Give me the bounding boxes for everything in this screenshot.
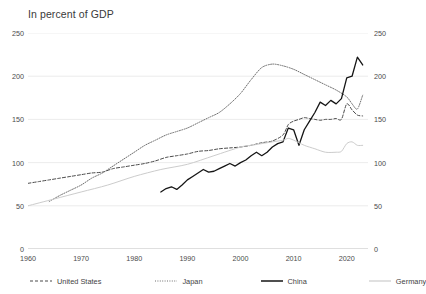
gridlines-group bbox=[28, 33, 368, 249]
legend-item-us[interactable]: United States bbox=[30, 277, 101, 286]
legend-swatch-cn-icon bbox=[261, 277, 283, 285]
x-tick-label: 2020 bbox=[332, 254, 362, 263]
legend-label: Japan bbox=[182, 277, 202, 286]
y-tick-label-right: 250 bbox=[374, 29, 398, 38]
series-line-china bbox=[161, 57, 363, 192]
legend-swatch-jp-icon bbox=[155, 277, 177, 285]
x-tick-label: 1990 bbox=[172, 254, 202, 263]
legend-label: China bbox=[288, 277, 307, 286]
legend-item-de[interactable]: Germany bbox=[369, 277, 426, 286]
y-tick-label-right: 200 bbox=[374, 72, 398, 81]
legend-swatch-de-icon bbox=[369, 277, 391, 285]
legend-swatch-us-icon bbox=[30, 277, 52, 285]
y-tick-label-right: 100 bbox=[374, 159, 398, 168]
x-tick-label: 2000 bbox=[226, 254, 256, 263]
x-tick-label: 1960 bbox=[13, 254, 43, 263]
y-tick-label-left: 200 bbox=[0, 72, 24, 81]
x-tick-label: 2010 bbox=[279, 254, 309, 263]
chart-canvas bbox=[28, 33, 368, 249]
y-tick-label-left: 0 bbox=[0, 245, 24, 254]
series-group bbox=[28, 57, 363, 206]
legend-label: Germany bbox=[396, 277, 426, 286]
y-tick-label-right: 0 bbox=[374, 245, 398, 254]
y-tick-label-left: 100 bbox=[0, 159, 24, 168]
legend-item-cn[interactable]: China bbox=[261, 277, 307, 286]
chart-legend: United StatesJapanChinaGermany bbox=[0, 272, 396, 290]
series-line-japan bbox=[49, 64, 362, 201]
y-tick-label-left: 250 bbox=[0, 29, 24, 38]
y-tick-label-right: 50 bbox=[374, 202, 398, 211]
series-line-germany bbox=[28, 138, 363, 205]
chart-title: In percent of GDP bbox=[28, 8, 114, 20]
x-tick-label: 1980 bbox=[119, 254, 149, 263]
plot-area bbox=[28, 33, 368, 249]
y-tick-label-left: 50 bbox=[0, 202, 24, 211]
x-tick-label: 1970 bbox=[66, 254, 96, 263]
legend-item-jp[interactable]: Japan bbox=[155, 277, 202, 286]
y-tick-label-right: 150 bbox=[374, 115, 398, 124]
legend-label: United States bbox=[57, 277, 101, 286]
y-tick-label-left: 150 bbox=[0, 115, 24, 124]
